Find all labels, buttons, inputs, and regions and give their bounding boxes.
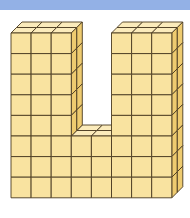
cube-front-face xyxy=(11,115,31,136)
cube-front-face xyxy=(71,157,91,178)
cube-front-face xyxy=(91,177,111,198)
cube-front-face xyxy=(11,74,31,95)
cube-front-face xyxy=(11,95,31,116)
cube-front-face xyxy=(152,74,172,95)
cube-front-face xyxy=(51,136,71,157)
cube-front-face xyxy=(132,157,152,178)
cube-front-face xyxy=(31,136,51,157)
cube-front-face xyxy=(152,33,172,54)
cube-front-face xyxy=(132,177,152,198)
cube-front-face xyxy=(112,115,132,136)
cube-front-face xyxy=(11,54,31,75)
cube-front-face xyxy=(112,157,132,178)
cube-front-face xyxy=(11,177,31,198)
cube-front-face xyxy=(132,95,152,116)
cube-front-face xyxy=(152,95,172,116)
cube-front-face xyxy=(31,115,51,136)
cube-front-face xyxy=(51,177,71,198)
cube-front-face xyxy=(71,136,91,157)
cube-front-face xyxy=(51,157,71,178)
cube-front-face xyxy=(152,136,172,157)
cube-front-face xyxy=(152,54,172,75)
cube-front-face xyxy=(132,115,152,136)
cube-front-face xyxy=(11,136,31,157)
cube-front-face xyxy=(31,54,51,75)
cube-front-face xyxy=(152,157,172,178)
cube-front-face xyxy=(51,95,71,116)
cube-front-face xyxy=(51,115,71,136)
cube-front-face xyxy=(112,74,132,95)
cube-front-face xyxy=(31,157,51,178)
cube-front-face xyxy=(11,157,31,178)
cube-front-face xyxy=(112,54,132,75)
cube-front-face xyxy=(51,74,71,95)
cube-front-face xyxy=(112,177,132,198)
cube-front-face xyxy=(31,177,51,198)
cube-front-face xyxy=(71,177,91,198)
cube-front-face xyxy=(112,136,132,157)
cube-front-face xyxy=(152,115,172,136)
cube-front-face xyxy=(152,177,172,198)
cube-u-figure xyxy=(0,0,190,218)
cube-front-face xyxy=(132,74,152,95)
cube-front-face xyxy=(31,95,51,116)
cube-front-face xyxy=(112,33,132,54)
cube-front-face xyxy=(132,136,152,157)
cube-front-face xyxy=(112,95,132,116)
cube-front-face xyxy=(31,33,51,54)
cube-front-face xyxy=(51,33,71,54)
cube-front-face xyxy=(91,157,111,178)
cube-front-face xyxy=(132,54,152,75)
cube-front-face xyxy=(51,54,71,75)
cube-front-face xyxy=(91,136,111,157)
cube-front-face xyxy=(11,33,31,54)
cube-front-face xyxy=(132,33,152,54)
cube-front-face xyxy=(31,74,51,95)
